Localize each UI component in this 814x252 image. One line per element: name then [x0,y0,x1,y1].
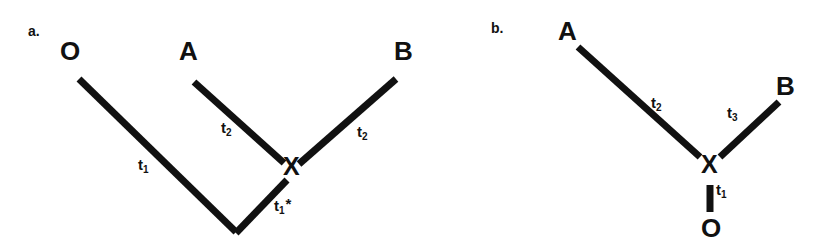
panel-letter-b: b. [491,21,503,35]
branch-line-a-B [299,79,396,164]
taxon-label-a-O: O [60,38,80,64]
branch-label-b-t3-sub: 3 [732,112,738,123]
branch-label-a-t1-star-sub: 1 [279,205,285,216]
panel-letter-a: a. [28,24,40,38]
branch-label-b-t3: t3 [727,105,738,120]
branch-label-b-t2-sub: 2 [656,102,662,113]
branch-line-b-A [578,47,700,157]
branch-label-a-t2-left-sub: 2 [226,127,232,138]
node-label-b-X: X [701,152,718,177]
taxon-label-a-A: A [179,38,198,64]
branch-label-a-t1-star: t1* [274,198,290,213]
branch-label-b-t1-sub: 1 [721,189,727,200]
taxon-label-b-A: A [558,18,577,44]
branch-label-a-t1: t1 [138,157,149,172]
taxon-label-a-B: B [394,38,413,64]
figure-canvas: a. O A B X t1 t2 t2 t1* b. A B O X t2 t3… [0,0,814,252]
branch-label-a-t1-sub: 1 [143,164,149,175]
branch-label-a-t2-right: t2 [357,124,368,139]
branch-line-a-A [194,82,284,163]
taxon-label-b-O: O [701,215,721,241]
branch-label-b-t1: t1 [716,182,727,197]
branch-label-a-t2-left: t2 [221,120,232,135]
branch-label-a-t2-right-sub: 2 [362,131,368,142]
branch-label-b-t2: t2 [651,95,662,110]
node-label-a-X: X [283,154,300,179]
branch-label-a-t1-star-asterisk: * [286,195,292,212]
taxon-label-b-B: B [776,73,795,99]
